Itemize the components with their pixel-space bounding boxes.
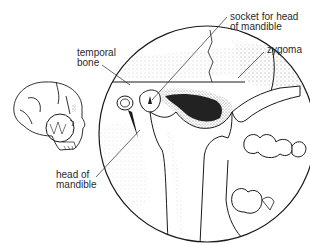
tmj-illustration <box>0 0 310 244</box>
magnified-joint-view <box>95 26 310 244</box>
label-head-line2: mandible <box>56 180 97 190</box>
tmj-diagram: temporal bone socket for head of mandibl… <box>0 0 310 244</box>
label-zygoma: zygoma <box>267 45 302 55</box>
label-zygoma-line1: zygoma <box>267 45 302 55</box>
label-socket-line2: of mandible <box>230 22 298 32</box>
label-temporal-line2: bone <box>77 58 116 68</box>
label-socket-for-head-of-mandible: socket for head of mandible <box>230 12 298 32</box>
label-temporal-bone: temporal bone <box>77 48 116 68</box>
small-skull-icon <box>14 82 85 150</box>
label-head-of-mandible: head of mandible <box>56 170 97 190</box>
